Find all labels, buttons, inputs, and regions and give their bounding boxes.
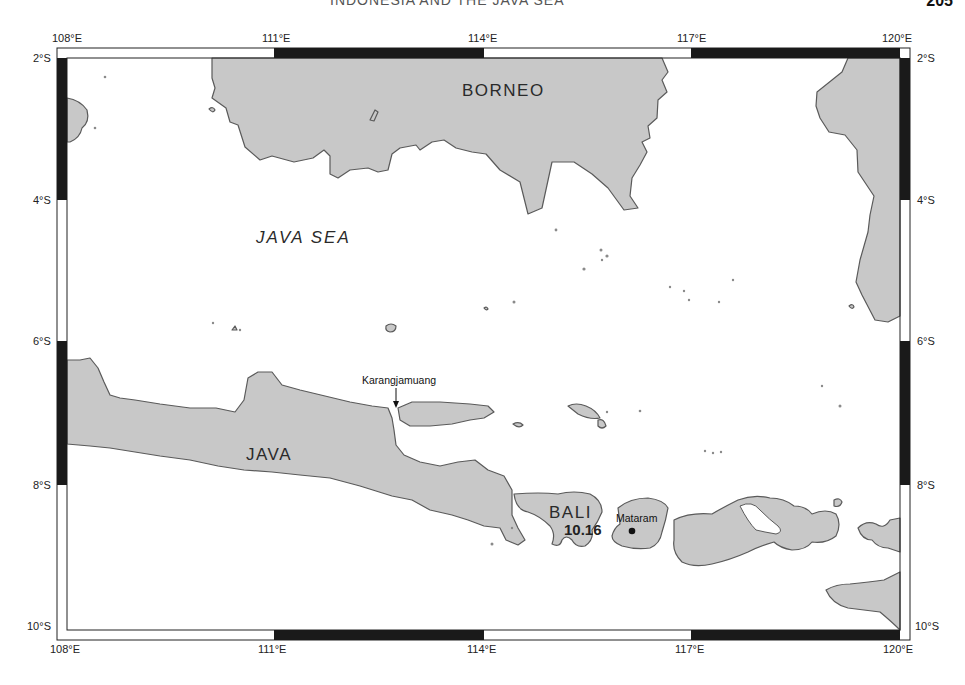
tick-left-4s: 4°S	[33, 194, 51, 206]
madura-island	[398, 402, 494, 426]
kangean-islands	[568, 404, 606, 428]
label-java: JAVA	[246, 445, 292, 464]
tick-right-8s: 8°S	[917, 479, 935, 491]
label-bali-value: 10.16	[564, 521, 602, 538]
tick-bottom-108e: 108°E	[50, 643, 80, 655]
borneo-islet	[209, 108, 215, 112]
arrow-icon	[393, 388, 399, 408]
tick-top-108e: 108°E	[52, 32, 82, 44]
tick-bottom-117e: 117°E	[675, 643, 704, 655]
tick-right-10s: 10°S	[915, 620, 939, 632]
bottom-tick-labels: 108°E 111°E 114°E 117°E 120°E	[50, 643, 913, 655]
label-karangjamuang: Karangjamuang	[362, 374, 436, 386]
label-mataram: Mataram	[616, 512, 658, 524]
borneo-landmass	[212, 58, 668, 214]
tick-bottom-120e: 120°E	[883, 643, 913, 655]
tick-right-6s: 6°S	[917, 335, 935, 347]
tick-top-120e: 120°E	[882, 32, 912, 44]
label-bali: BALI	[549, 503, 592, 522]
tick-top-111e: 111°E	[262, 32, 290, 44]
tick-top-117e: 117°E	[677, 32, 706, 44]
tick-right-2s: 2°S	[917, 52, 935, 64]
sangeang-island	[834, 499, 842, 507]
sumba-island	[826, 572, 900, 630]
label-borneo: BORNEO	[462, 81, 545, 100]
label-java-sea: JAVA SEA	[255, 228, 351, 247]
tick-left-6s: 6°S	[33, 335, 51, 347]
java-landmass	[67, 358, 525, 545]
right-tick-labels: 2°S 4°S 6°S 8°S 10°S	[915, 52, 939, 632]
tick-right-4s: 4°S	[917, 194, 935, 206]
tick-bottom-114e: 114°E	[467, 643, 496, 655]
mataram-marker-icon	[629, 528, 636, 535]
tick-top-114e: 114°E	[468, 32, 497, 44]
small-island-2	[386, 324, 396, 332]
belitung-edge	[67, 98, 88, 142]
tick-bottom-111e: 111°E	[258, 643, 286, 655]
map-land	[67, 58, 900, 630]
tick-left-2s: 2°S	[33, 52, 51, 64]
small-island-3	[232, 326, 237, 330]
small-island-4	[484, 307, 488, 310]
left-tick-labels: 2°S 4°S 6°S 8°S 10°S	[27, 52, 51, 632]
tick-left-8s: 8°S	[33, 479, 51, 491]
top-tick-labels: 108°E 111°E 114°E 117°E 120°E	[52, 32, 912, 44]
sulawesi-islet	[849, 305, 854, 309]
sulawesi-landmass	[816, 58, 900, 322]
map: 108°E 111°E 114°E 117°E 120°E 108°E 111°…	[0, 0, 965, 685]
tick-left-10s: 10°S	[27, 620, 51, 632]
small-island-1	[513, 423, 523, 427]
flores-edge	[858, 518, 900, 552]
